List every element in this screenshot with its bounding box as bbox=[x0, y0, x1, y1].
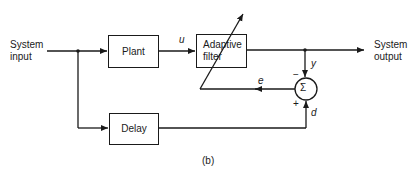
plant-block: Plant bbox=[108, 35, 159, 68]
plus-sign: + bbox=[293, 98, 299, 110]
delay-label: Delay bbox=[121, 123, 147, 135]
delay-block: Delay bbox=[109, 113, 159, 145]
signal-y-label: y bbox=[311, 58, 316, 69]
minus-sign: − bbox=[293, 69, 299, 81]
diagram-connections bbox=[0, 0, 416, 177]
figure-caption: (b) bbox=[202, 155, 214, 167]
signal-d-label: d bbox=[311, 107, 317, 118]
adaptive-filter-block: Adaptive filter bbox=[196, 34, 247, 68]
signal-u-label: u bbox=[179, 34, 185, 45]
signal-e-label: e bbox=[258, 75, 264, 86]
system-output-label: System output bbox=[374, 39, 407, 63]
plant-label: Plant bbox=[122, 46, 145, 58]
adaptive-filter-label: Adaptive filter bbox=[203, 39, 242, 63]
summer-symbol: Σ bbox=[300, 82, 306, 93]
system-input-label: System input bbox=[10, 39, 43, 63]
